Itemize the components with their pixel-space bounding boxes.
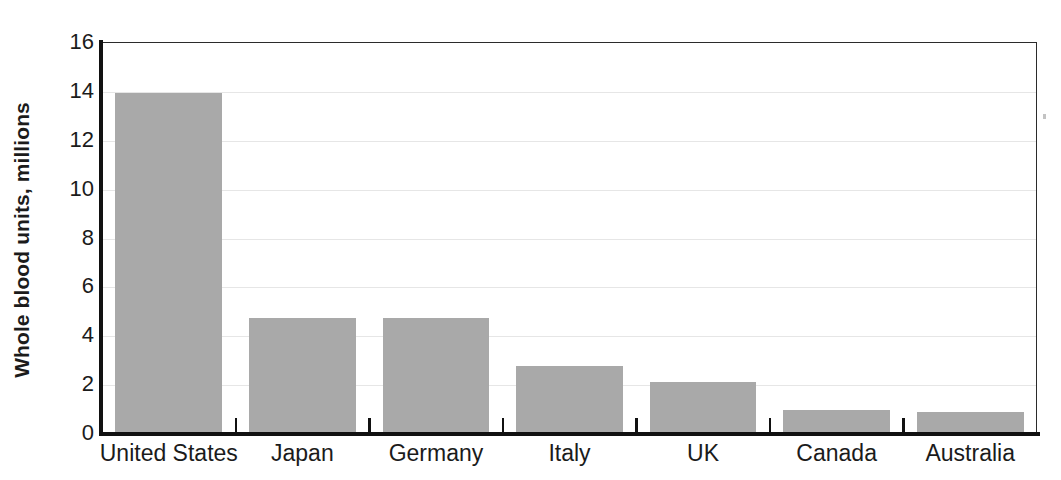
x-axis-category-label: UK [687, 440, 719, 468]
x-axis-category-label: Italy [548, 440, 590, 468]
x-axis-line [99, 432, 1040, 436]
y-axis-tick-label: 12 [44, 129, 94, 151]
x-axis-category-label: Canada [796, 440, 877, 468]
gridline [102, 239, 1036, 240]
y-axis-tick-label: 2 [44, 373, 94, 395]
x-axis-tick [502, 418, 505, 433]
y-axis-tick-labels: 0246810121416 [44, 0, 94, 480]
bar [650, 382, 757, 433]
x-axis-category-label: Germany [389, 440, 484, 468]
x-axis-category-label: Japan [271, 440, 334, 468]
x-axis-tick [635, 418, 638, 433]
x-axis-tick [902, 418, 905, 433]
y-axis-title: Whole blood units, millions [0, 0, 44, 480]
x-axis-tick [368, 418, 371, 433]
gridline [102, 287, 1036, 288]
bar-chart-figure: Whole blood units, millions 024681012141… [0, 0, 1061, 480]
scan-artifact-speck [1043, 114, 1046, 119]
y-axis-tick-label: 6 [44, 275, 94, 297]
y-axis-tick-label: 14 [44, 80, 94, 102]
y-axis-tick-label: 4 [44, 324, 94, 346]
y-axis-tick-label: 16 [44, 31, 94, 53]
y-axis-tick-label: 0 [44, 422, 94, 444]
y-axis-tick-label: 8 [44, 227, 94, 249]
gridline [102, 92, 1036, 93]
bar [115, 93, 222, 433]
bar [249, 318, 356, 433]
bar [516, 366, 623, 433]
x-axis-category-label: United States [100, 440, 238, 468]
bar [917, 412, 1024, 433]
gridline [102, 336, 1036, 337]
gridline [102, 141, 1036, 142]
y-axis-line [99, 40, 103, 436]
gridline [102, 190, 1036, 191]
plot-area [102, 42, 1037, 433]
bar [383, 318, 490, 433]
bar [783, 410, 890, 433]
x-axis-category-label: Australia [925, 440, 1014, 468]
x-axis-tick [769, 418, 772, 433]
x-axis-tick [235, 418, 238, 433]
y-axis-tick-label: 10 [44, 178, 94, 200]
